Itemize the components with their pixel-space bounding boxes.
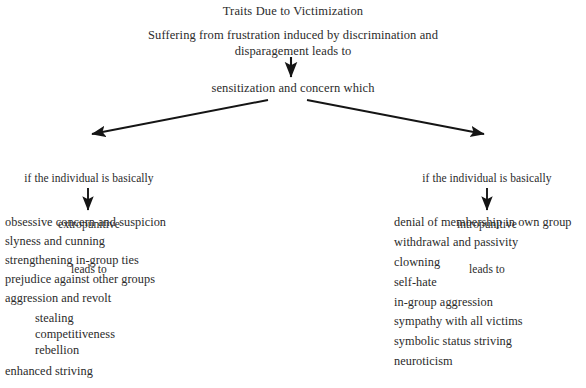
trait-item: prejudice against other groups — [5, 273, 285, 285]
trait-item: enhanced striving — [5, 365, 285, 377]
trait-item: strengthening in-group ties — [5, 254, 285, 266]
arrow-central-to-right-branch — [307, 100, 484, 134]
trait-item: denial of membership in own group — [394, 216, 584, 228]
trait-list-intropunitive: denial of membership in own groupwithdra… — [394, 216, 584, 375]
trait-items-trailing: enhanced striving — [5, 365, 285, 377]
trait-items-main: obsessive concern and suspicionslyness a… — [5, 216, 285, 305]
trait-item: clowning — [394, 256, 584, 268]
trait-sub-items: stealingcompetitivenessrebellion — [5, 311, 285, 359]
diagram-title: Traits Due to Victimization — [0, 4, 586, 20]
trait-list-extropunitive: obsessive concern and suspicionslyness a… — [5, 216, 285, 384]
trait-item: slyness and cunning — [5, 235, 285, 247]
trait-item: neuroticism — [394, 355, 584, 367]
trait-sub-item: rebellion — [5, 343, 285, 359]
trait-items-main: denial of membership in own groupwithdra… — [394, 216, 584, 368]
premise-text: Suffering from frustration induced by di… — [0, 28, 586, 60]
trait-item: self-hate — [394, 276, 584, 288]
central-node-label: sensitization and concern which — [0, 81, 586, 97]
trait-item: symbolic status striving — [394, 335, 584, 347]
trait-item: withdrawal and passivity — [394, 236, 584, 248]
branch-left-line-1: if the individual is basically — [0, 171, 178, 186]
trait-sub-item: competitiveness — [5, 327, 285, 343]
trait-item: aggression and revolt — [5, 292, 285, 304]
premise-line-1: Suffering from frustration induced by di… — [148, 28, 438, 42]
victimization-traits-diagram: Traits Due to Victimization Suffering fr… — [0, 0, 586, 388]
trait-item: obsessive concern and suspicion — [5, 216, 285, 228]
trait-item: sympathy with all victims — [394, 315, 584, 327]
trait-sub-item: stealing — [5, 311, 285, 327]
arrow-central-to-left-branch — [92, 100, 268, 134]
premise-line-2: disparagement leads to — [0, 44, 586, 60]
trait-item: in-group aggression — [394, 296, 584, 308]
branch-right-line-1: if the individual is basically — [398, 171, 576, 186]
